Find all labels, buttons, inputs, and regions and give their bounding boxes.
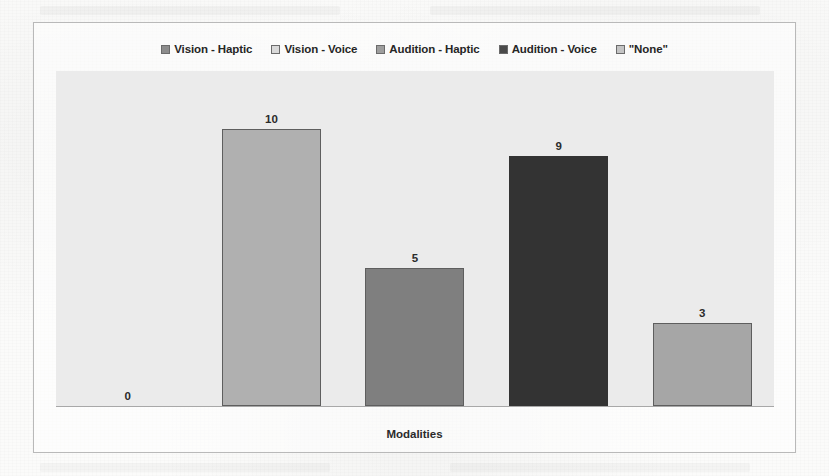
legend-item-none[interactable]: "None" xyxy=(616,43,668,55)
background-ghost-text xyxy=(40,6,340,15)
legend-swatch-icon xyxy=(161,45,170,54)
bar-value-label: 0 xyxy=(125,391,131,403)
legend-swatch-icon xyxy=(499,45,508,54)
legend-item-vision-haptic[interactable]: Vision - Haptic xyxy=(161,43,252,55)
chart-legend: Vision - Haptic Vision - Voice Audition … xyxy=(34,43,795,55)
bar-value-label: 3 xyxy=(699,308,705,320)
bar-audition-haptic[interactable] xyxy=(365,268,464,406)
x-axis-title: Modalities xyxy=(34,428,795,440)
bar-value-label: 5 xyxy=(412,253,418,265)
bar-none[interactable] xyxy=(653,323,752,406)
bar-value-label: 9 xyxy=(555,141,561,153)
bar-vision-voice[interactable] xyxy=(222,129,321,406)
bar-slot-none: 3 xyxy=(630,71,774,406)
bar-slot-audition-voice: 9 xyxy=(487,71,631,406)
legend-item-audition-voice[interactable]: Audition - Voice xyxy=(499,43,597,55)
bar-series: 0 10 5 9 3 xyxy=(56,71,774,406)
bar-slot-vision-voice: 10 xyxy=(200,71,344,406)
bar-slot-vision-haptic: 0 xyxy=(56,71,200,406)
plot-area: 0 10 5 9 3 xyxy=(56,71,774,406)
legend-item-label: Vision - Voice xyxy=(284,43,357,55)
legend-item-vision-voice[interactable]: Vision - Voice xyxy=(271,43,357,55)
bar-audition-voice[interactable] xyxy=(509,156,608,406)
bar-slot-audition-haptic: 5 xyxy=(343,71,487,406)
background-ghost-text xyxy=(430,6,760,15)
legend-swatch-icon xyxy=(376,45,385,54)
x-axis-line xyxy=(56,406,774,407)
legend-swatch-icon xyxy=(616,45,625,54)
legend-swatch-icon xyxy=(271,45,280,54)
background-ghost-text xyxy=(40,463,330,472)
background-ghost-text xyxy=(450,463,750,472)
legend-item-label: Vision - Haptic xyxy=(174,43,252,55)
chart-container: Vision - Haptic Vision - Voice Audition … xyxy=(33,22,796,453)
legend-item-label: Audition - Haptic xyxy=(389,43,479,55)
legend-item-audition-haptic[interactable]: Audition - Haptic xyxy=(376,43,479,55)
legend-item-label: "None" xyxy=(629,43,668,55)
bar-value-label: 10 xyxy=(265,114,278,126)
legend-item-label: Audition - Voice xyxy=(512,43,597,55)
